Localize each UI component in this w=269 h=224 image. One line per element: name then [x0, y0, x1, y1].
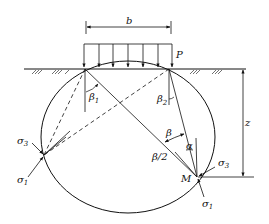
sigma3-left-label: σ3	[17, 135, 29, 148]
beta1-label: β1	[88, 91, 99, 105]
strip-load-diagram: b P z	[0, 0, 269, 224]
distributed-load	[84, 44, 172, 67]
beta-label: β	[165, 127, 172, 138]
point-m-label: M	[180, 173, 192, 184]
beta-half-label: β/2	[151, 151, 168, 162]
sigma1-right-label: σ1	[202, 198, 213, 211]
sigma3-right-label: σ3	[218, 157, 230, 170]
depth-label: z	[244, 117, 251, 128]
left-edge-rays	[44, 69, 197, 177]
right-edge-rays	[44, 69, 197, 177]
width-label: b	[126, 15, 132, 26]
stress-circle	[41, 61, 215, 213]
alpha-label: α	[186, 140, 193, 151]
load-label: P	[175, 49, 183, 60]
sigma1-right-arrow	[198, 179, 204, 197]
sigma1-left-label: σ1	[17, 174, 28, 187]
soil-hatch-right	[190, 70, 222, 74]
beta2-label: β2	[156, 93, 168, 107]
sigma1-left-arrow	[28, 157, 43, 177]
left-point-rays	[44, 131, 70, 155]
beta2-arc	[169, 97, 174, 99]
soil-hatch-left	[32, 70, 69, 74]
